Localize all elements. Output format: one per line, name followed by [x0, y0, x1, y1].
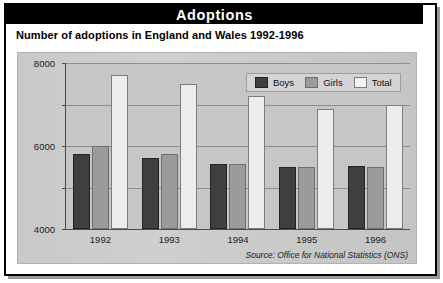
bar-boys-1995[interactable] — [279, 167, 296, 229]
bar-girls-1994[interactable] — [229, 164, 246, 229]
y-tick-0: 0 — [62, 229, 66, 230]
bar-total-1992[interactable] — [111, 75, 128, 229]
chart-legend: Boys Girls Total — [246, 73, 401, 92]
legend-item-total[interactable]: Total — [354, 77, 392, 88]
legend-label-total: Total — [372, 77, 392, 88]
bar-total-1995[interactable] — [317, 109, 334, 229]
chart-panel: 0200040006000800019921993199419951996 Bo… — [17, 52, 417, 264]
x-axis-label-1994: 1994 — [204, 234, 273, 245]
y-axis-label-4000: 4000 — [34, 224, 55, 235]
y-axis-label-8000: 8000 — [34, 58, 55, 69]
bar-group-1992: 1992 — [66, 63, 135, 229]
frame-shadow-bottom — [8, 276, 440, 279]
bar-girls-1995[interactable] — [298, 167, 315, 229]
bar-girls-1992[interactable] — [92, 146, 109, 229]
bar-boys-1994[interactable] — [210, 164, 227, 229]
bar-boys-1993[interactable] — [142, 158, 159, 229]
x-axis-label-1992: 1992 — [66, 234, 135, 245]
bar-total-1993[interactable] — [180, 84, 197, 229]
bar-girls-1993[interactable] — [161, 154, 178, 229]
chart-subtitle: Number of adoptions in England and Wales… — [16, 29, 304, 41]
bar-group-1993: 1993 — [135, 63, 204, 229]
bar-total-1996[interactable] — [386, 105, 403, 230]
legend-swatch-total — [354, 77, 367, 88]
legend-label-girls: Girls — [323, 77, 343, 88]
bar-girls-1996[interactable] — [367, 167, 384, 229]
x-axis-label-1993: 1993 — [135, 234, 204, 245]
bar-boys-1996[interactable] — [348, 166, 365, 229]
x-axis-label-1995: 1995 — [272, 234, 341, 245]
frame-shadow-right — [437, 7, 440, 279]
title-bar: Adoptions — [6, 5, 423, 24]
bar-total-1994[interactable] — [248, 96, 265, 229]
x-axis-label-1996: 1996 — [341, 234, 410, 245]
chart-page: Adoptions Number of adoptions in England… — [0, 0, 443, 283]
y-axis-label-6000: 6000 — [34, 141, 55, 152]
legend-label-boys: Boys — [273, 77, 294, 88]
legend-swatch-boys — [255, 77, 268, 88]
legend-item-boys[interactable]: Boys — [255, 77, 294, 88]
legend-swatch-girls — [305, 77, 318, 88]
page-title: Adoptions — [176, 7, 253, 23]
bar-boys-1992[interactable] — [73, 154, 90, 229]
source-note: Source: Office for National Statistics (… — [246, 250, 409, 260]
legend-item-girls[interactable]: Girls — [305, 77, 343, 88]
